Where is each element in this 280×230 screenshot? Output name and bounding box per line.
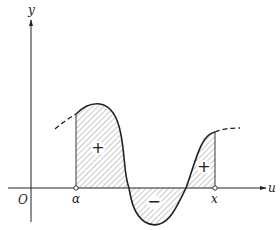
x-axis-label: u xyxy=(268,181,276,195)
region-sign-positive-2: + xyxy=(197,157,210,176)
region-sign-negative: − xyxy=(147,192,160,211)
alpha-label: α xyxy=(72,192,80,206)
x-limit-label: x xyxy=(211,192,218,206)
alpha-point xyxy=(74,186,78,190)
x-point xyxy=(213,186,217,190)
y-axis-label: y xyxy=(27,3,35,17)
integral-diagram: + − + y u O α x xyxy=(0,0,280,230)
origin-label: O xyxy=(18,193,28,207)
curve-dashed-left xyxy=(55,114,76,129)
curve-dashed-right xyxy=(215,128,240,132)
region-sign-positive-1: + xyxy=(91,138,104,157)
